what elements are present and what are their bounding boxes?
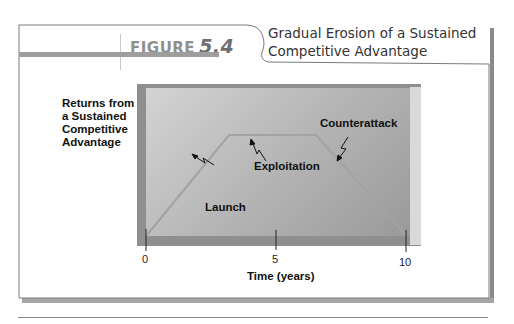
- exploitation-label: Exploitation: [254, 160, 320, 172]
- tick-label-0: 0: [142, 253, 148, 265]
- x-axis-label: Time (years): [247, 270, 315, 282]
- counterattack-label: Counterattack: [320, 117, 397, 129]
- exploitation-arrow-icon: [250, 139, 266, 161]
- counterattack-arrow-icon: [337, 137, 348, 161]
- launch-label: Launch: [205, 201, 246, 213]
- bottom-rule: [18, 317, 488, 318]
- tick-label-5: 5: [272, 253, 278, 265]
- returns-line: [147, 135, 406, 235]
- tick-label-10: 10: [399, 256, 411, 268]
